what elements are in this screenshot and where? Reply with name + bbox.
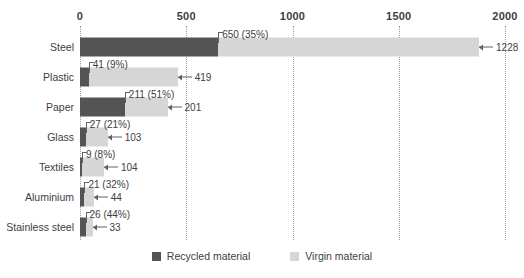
bar-segment-virgin [218,38,479,57]
leader-cap [82,152,87,153]
stacked-bar [80,188,94,207]
gridline-2000 [505,26,506,240]
leader-cap [84,182,89,183]
data-label-virgin-text: 44 [111,192,122,203]
data-label-virgin-text: 104 [121,162,138,173]
x-tick-label-500: 500 [177,10,196,22]
bar-segment-recycled [80,98,125,117]
data-label-virgin-text: 103 [125,132,142,143]
data-label-virgin: 1228 [479,42,518,53]
legend-item-recycled[interactable]: Recycled material [152,250,250,262]
legend-label: Recycled material [167,250,250,262]
legend-item-virgin[interactable]: Virgin material [290,250,372,262]
leader-cap [86,122,91,123]
x-tick-label-1000: 1000 [280,10,305,22]
chart-legend: Recycled materialVirgin material [0,250,524,262]
bar-segment-virgin [86,218,93,237]
category-label: Glass [47,131,74,143]
stacked-bar [80,158,104,177]
x-tick-label-0: 0 [77,10,83,22]
table-row: Glass27 (21%)103 [80,122,505,152]
leader-arrow [94,197,108,198]
data-label-virgin: 44 [94,192,122,203]
category-label: Steel [50,41,74,53]
leader-cap [86,212,91,213]
leader-arrow [479,47,493,48]
legend-swatch-icon [290,252,299,261]
data-label-virgin-text: 1228 [496,42,518,53]
table-row: Textiles9 (8%)104 [80,152,505,182]
category-label: Plastic [43,71,74,83]
leader-arrow [104,167,118,168]
x-tick-label-2000: 2000 [492,10,517,22]
data-label-virgin: 104 [104,162,138,173]
table-row: Stainless steel26 (44%)33 [80,212,505,242]
data-label-virgin: 419 [178,72,212,83]
data-label-virgin-text: 33 [110,222,121,233]
table-row: Steel650 (35%)1228 [80,32,505,62]
plot-area: Steel650 (35%)1228Plastic41 (9%)419Paper… [80,26,505,240]
data-label-recycled: 650 (35%) [218,29,264,34]
stacked-bar [80,218,93,237]
leader-arrow [168,107,182,108]
category-label: Textiles [39,161,74,173]
table-row: Paper211 (51%)201 [80,92,505,122]
bar-segment-virgin [84,188,93,207]
bar-segment-recycled [80,68,89,87]
stacked-bar-chart: 0500100015002000 Steel650 (35%)1228Plast… [0,0,524,278]
data-label-virgin-text: 201 [185,102,202,113]
stacked-bar [80,128,108,147]
bar-segment-recycled [80,38,218,57]
table-row: Plastic41 (9%)419 [80,62,505,92]
x-tick-label-1500: 1500 [386,10,411,22]
stacked-bar [80,38,479,57]
data-label-virgin: 33 [93,222,121,233]
leader-arrow [93,227,107,228]
bar-segment-virgin [82,158,104,177]
category-label: Stainless steel [6,221,74,233]
data-label-virgin-text: 419 [195,72,212,83]
leader-arrow [178,77,192,78]
bar-segment-virgin [89,68,178,87]
stacked-bar [80,68,178,87]
leader-cap [125,92,130,93]
stacked-bar [80,98,168,117]
bar-segment-virgin [86,128,108,147]
bar-segment-virgin [125,98,168,117]
leader-cap [89,62,94,63]
data-label-virgin: 103 [108,132,142,143]
data-label-virgin: 201 [168,102,202,113]
category-label: Aluminium [25,191,74,203]
legend-swatch-icon [152,252,161,261]
leader-arrow [108,137,122,138]
leader-cap [218,32,223,33]
category-label: Paper [46,101,74,113]
table-row: Aluminium21 (32%)44 [80,182,505,212]
legend-label: Virgin material [305,250,372,262]
